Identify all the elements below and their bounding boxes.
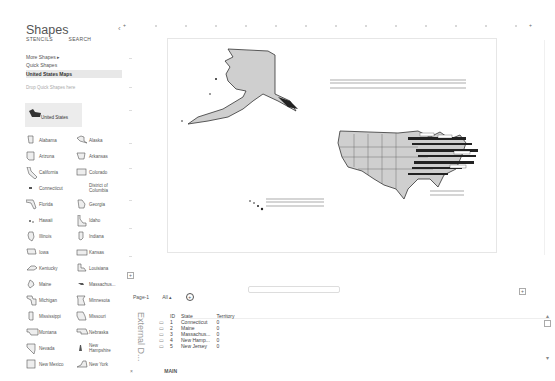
- maine-icon: [26, 279, 36, 289]
- shape-louisiana[interactable]: Louisiana: [76, 261, 124, 277]
- collapse-panel-icon[interactable]: ‹: [118, 24, 121, 33]
- scroll-up-icon[interactable]: ▴: [546, 312, 549, 319]
- louisiana-icon: [76, 263, 87, 273]
- horizontal-ruler: [155, 24, 525, 28]
- stencil-scrollbar[interactable]: [128, 0, 134, 300]
- shape-missouri[interactable]: Missouri: [76, 309, 124, 325]
- shape-hawaii[interactable]: Hawaii: [26, 213, 74, 229]
- shape-idaho[interactable]: Idaho: [76, 213, 124, 229]
- massachusetts-icon: [76, 279, 86, 289]
- shape-nebraska[interactable]: Nebraska: [76, 325, 124, 341]
- florida-icon: [26, 199, 38, 210]
- external-data-window: External D... ID State Territory ▭1Conne…: [130, 310, 550, 370]
- shape-minnesota[interactable]: Minnesota: [76, 293, 124, 309]
- table-row[interactable]: ▭5New Jersey0: [156, 343, 238, 349]
- new-hampshire-icon: [76, 343, 86, 353]
- shapes-panel-title: Shapes: [26, 23, 68, 37]
- quick-shapes-item[interactable]: Quick Shapes: [26, 61, 122, 69]
- connecticut-icon: [26, 183, 36, 193]
- ruler-left-icon[interactable]: +: [122, 23, 127, 28]
- tab-search[interactable]: SEARCH: [69, 36, 92, 42]
- shape-new-hampshire[interactable]: New Hampshire: [76, 341, 124, 357]
- shape-illinois[interactable]: Illinois: [26, 229, 74, 245]
- tab-stencils[interactable]: STENCILS: [26, 36, 53, 42]
- horizontal-scrollbar[interactable]: [248, 286, 340, 293]
- shape-nevada[interactable]: Nevada: [26, 341, 74, 357]
- us-map-icon: [28, 109, 42, 119]
- external-data-table: ID State Territory ▭1Connecticut0 ▭2Main…: [156, 313, 238, 349]
- ruler-right-icon[interactable]: +: [528, 23, 533, 28]
- kansas-icon: [76, 247, 88, 257]
- sheet-nav: × MAIN: [130, 368, 177, 374]
- illinois-icon: [26, 231, 36, 242]
- hawaii-icon: [26, 215, 36, 225]
- shape-district-of-columbia[interactable]: District of Columbia: [76, 181, 124, 197]
- california-icon: [26, 167, 38, 179]
- montana-icon: [26, 327, 39, 337]
- shape-kansas[interactable]: Kansas: [76, 245, 124, 261]
- indiana-icon: [76, 231, 86, 241]
- alabama-icon: [26, 135, 36, 145]
- link-icon: ▭: [156, 343, 167, 349]
- scroll-down-icon[interactable]: ▾: [546, 354, 549, 361]
- shape-california[interactable]: California: [26, 165, 74, 181]
- arizona-icon: [26, 151, 36, 161]
- nevada-icon: [26, 343, 37, 355]
- shape-maine[interactable]: Maine: [26, 277, 74, 293]
- shape-united-states[interactable]: United States: [25, 103, 82, 127]
- shape-georgia[interactable]: Georgia: [76, 197, 124, 213]
- colorado-icon: [76, 167, 87, 177]
- shape-montana[interactable]: Montana: [26, 325, 74, 341]
- vertical-guide: [544, 40, 545, 255]
- shape-mississippi[interactable]: Mississippi: [26, 309, 74, 325]
- united-states-maps-item[interactable]: United States Maps: [26, 70, 122, 78]
- shape-new-mexico[interactable]: New Mexico: [26, 357, 74, 373]
- us-map-drawing: [168, 39, 496, 252]
- add-page-icon[interactable]: +: [186, 293, 194, 301]
- zoom-fit-icon[interactable]: +: [519, 288, 526, 295]
- arkansas-icon: [76, 151, 86, 161]
- drop-quick-shapes-hint: Drop Quick Shapes here: [26, 85, 75, 90]
- shapes-panel: Shapes ‹ STENCILS SEARCH More Shapes ▸ Q…: [0, 0, 122, 381]
- shape-colorado[interactable]: Colorado: [76, 165, 124, 181]
- new-york-icon: [76, 359, 88, 369]
- shape-massachusetts[interactable]: Massachus...: [76, 277, 124, 293]
- shape-indiana[interactable]: Indiana: [76, 229, 124, 245]
- page-tabs: Page-1 All ▴ +: [133, 293, 206, 301]
- sheet-tab-main[interactable]: MAIN: [164, 368, 177, 374]
- drawing-page[interactable]: [167, 38, 497, 253]
- external-data-label: External D...: [136, 312, 146, 362]
- michigan-icon: [26, 295, 38, 306]
- tab-page-1[interactable]: Page-1: [133, 294, 149, 300]
- shape-new-york[interactable]: New York: [76, 357, 124, 373]
- shape-kentucky[interactable]: Kentucky: [26, 261, 74, 277]
- chevron-right-icon: ▸: [57, 54, 60, 60]
- new-mexico-icon: [26, 359, 36, 369]
- tab-all-pages[interactable]: All ▴: [162, 294, 172, 300]
- window-toggle-icon[interactable]: [544, 320, 551, 327]
- legend-box-alaska: [330, 80, 466, 88]
- minnesota-icon: [76, 295, 87, 306]
- shape-arizona[interactable]: Arizona: [26, 149, 74, 165]
- idaho-icon: [76, 215, 87, 227]
- shape-michigan[interactable]: Michigan: [26, 293, 74, 309]
- shape-florida[interactable]: Florida: [26, 197, 74, 213]
- shape-connecticut[interactable]: Connecticut: [26, 181, 74, 197]
- shape-alaska[interactable]: Alaska: [76, 133, 124, 149]
- close-icon[interactable]: ×: [130, 368, 133, 374]
- nebraska-icon: [76, 327, 89, 337]
- georgia-icon: [76, 199, 86, 209]
- shape-arkansas[interactable]: Arkansas: [76, 149, 124, 165]
- missouri-icon: [76, 311, 87, 322]
- iowa-icon: [26, 247, 37, 257]
- more-shapes-menu[interactable]: More Shapes ▸: [26, 53, 122, 61]
- expand-icon[interactable]: +: [127, 272, 134, 279]
- alaska-icon: [76, 135, 88, 145]
- kentucky-icon: [26, 263, 38, 273]
- mississippi-icon: [26, 311, 36, 322]
- shape-iowa[interactable]: Iowa: [26, 245, 74, 261]
- shape-alabama[interactable]: Alabama: [26, 133, 74, 149]
